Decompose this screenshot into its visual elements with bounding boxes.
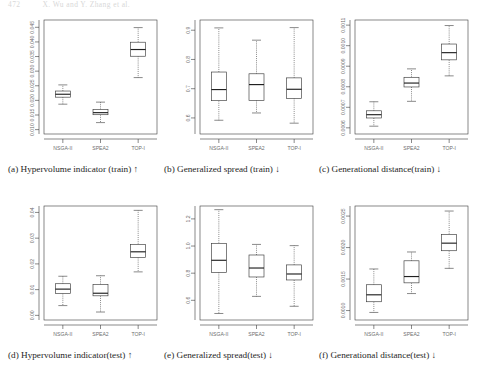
svg-text:0.025: 0.025	[29, 79, 35, 92]
caption-b: (b) Generalized spread (train) ↓	[164, 164, 316, 175]
figure-row-top: 0.0100.0150.0200.0250.0300.0350.0400.045…	[0, 14, 488, 200]
svg-text:0.6: 0.6	[185, 297, 191, 304]
svg-text:0.6: 0.6	[185, 114, 191, 121]
svg-text:1.0: 1.0	[185, 242, 191, 249]
svg-text:0.03: 0.03	[29, 233, 35, 243]
svg-text:0.0011: 0.0011	[340, 17, 346, 32]
caption-a: (a) Hypervolume indicator (train) ↑	[8, 164, 158, 175]
caption-a-arrow: ↑	[134, 164, 139, 174]
subfigure-f: 0.00100.00150.00200.0025NSGA-IISPEA2TOP-…	[311, 200, 473, 386]
caption-e-text: Generalized spread(test)	[177, 350, 267, 360]
svg-text:TOP-I: TOP-I	[442, 331, 456, 337]
subfigure-d: 0.000.010.020.030.04NSGA-IISPEA2TOP-I (d…	[0, 200, 162, 386]
svg-text:0.04: 0.04	[29, 207, 35, 217]
svg-text:SPEA2: SPEA2	[92, 331, 109, 337]
svg-text:SPEA2: SPEA2	[403, 145, 420, 151]
svg-text:0.030: 0.030	[29, 65, 35, 78]
caption-a-text: Hypervolume indicator (train)	[21, 164, 132, 174]
subfigure-a: 0.0100.0150.0200.0250.0300.0350.0400.045…	[0, 14, 162, 200]
caption-c-arrow: ↓	[437, 164, 442, 174]
svg-text:SPEA2: SPEA2	[403, 331, 420, 337]
caption-d-label: (d)	[8, 350, 19, 360]
svg-text:0.045: 0.045	[29, 21, 35, 34]
boxplot-d: 0.000.010.020.030.04NSGA-IISPEA2TOP-I	[0, 202, 162, 350]
caption-f: (f) Generational distance(test) ↓	[319, 350, 477, 361]
caption-e-label: (e)	[164, 350, 174, 360]
svg-text:0.0008: 0.0008	[340, 79, 346, 95]
svg-text:0.0009: 0.0009	[340, 58, 346, 74]
header-title: X. Wu and Y. Zhang et al.	[42, 0, 130, 9]
subfigure-c: 0.00060.00070.00080.00090.00100.0011NSGA…	[311, 14, 473, 200]
caption-b-label: (b)	[164, 164, 175, 174]
svg-text:0.0020: 0.0020	[340, 240, 346, 256]
svg-text:TOP-I: TOP-I	[287, 145, 301, 151]
svg-text:0.01: 0.01	[29, 285, 35, 295]
caption-e: (e) Generalized spread(test) ↓	[164, 350, 316, 361]
boxplot-d-canvas: 0.000.010.020.030.04NSGA-IISPEA2TOP-I	[0, 202, 162, 350]
caption-f-arrow: ↓	[432, 350, 437, 360]
subfigure-b: 0.60.70.80.9NSGA-IISPEA2TOP-I (b) Genera…	[156, 14, 318, 200]
caption-e-arrow: ↓	[268, 350, 273, 360]
boxplot-b-canvas: 0.60.70.80.9NSGA-IISPEA2TOP-I	[156, 16, 318, 164]
boxplot-a: 0.0100.0150.0200.0250.0300.0350.0400.045…	[0, 16, 162, 164]
caption-f-label: (f)	[319, 350, 328, 360]
svg-text:TOP-I: TOP-I	[131, 331, 145, 337]
svg-text:NSGA-II: NSGA-II	[209, 331, 228, 337]
svg-text:0.7: 0.7	[185, 85, 191, 92]
svg-text:0.015: 0.015	[29, 108, 35, 121]
svg-text:NSGA-II: NSGA-II	[53, 331, 72, 337]
svg-text:TOP-I: TOP-I	[131, 145, 145, 151]
svg-text:NSGA-II: NSGA-II	[209, 145, 228, 151]
caption-a-label: (a)	[8, 164, 18, 174]
boxplot-e: 0.60.81.01.2NSGA-IISPEA2TOP-I	[156, 202, 318, 350]
svg-text:SPEA2: SPEA2	[92, 145, 109, 151]
svg-text:NSGA-II: NSGA-II	[364, 331, 383, 337]
svg-text:0.0015: 0.0015	[340, 271, 346, 287]
caption-f-text: Generational distance(test)	[330, 350, 429, 360]
svg-text:0.0006: 0.0006	[340, 120, 346, 136]
caption-b-arrow: ↓	[275, 164, 280, 174]
svg-text:TOP-I: TOP-I	[287, 331, 301, 337]
svg-text:NSGA-II: NSGA-II	[53, 145, 72, 151]
svg-text:0.035: 0.035	[29, 50, 35, 63]
svg-text:0.0010: 0.0010	[340, 38, 346, 54]
boxplot-f: 0.00100.00150.00200.0025NSGA-IISPEA2TOP-…	[311, 202, 473, 350]
svg-text:0.0010: 0.0010	[340, 303, 346, 319]
caption-c-text: Generational distance(train)	[332, 164, 435, 174]
svg-text:1.2: 1.2	[185, 215, 191, 222]
svg-text:0.8: 0.8	[185, 56, 191, 63]
caption-c: (c) Generational distance(train) ↓	[319, 164, 477, 175]
svg-text:0.02: 0.02	[29, 259, 35, 269]
caption-d: (d) Hypervolume indicator(test) ↑	[8, 350, 158, 361]
svg-text:0.00: 0.00	[29, 310, 35, 320]
svg-text:NSGA-II: NSGA-II	[364, 145, 383, 151]
svg-text:0.010: 0.010	[29, 123, 35, 136]
svg-text:0.0007: 0.0007	[340, 99, 346, 115]
svg-text:SPEA2: SPEA2	[248, 145, 265, 151]
svg-text:0.8: 0.8	[185, 269, 191, 276]
figure-row-bottom: 0.000.010.020.030.04NSGA-IISPEA2TOP-I (d…	[0, 200, 488, 386]
boxplot-b: 0.60.70.80.9NSGA-IISPEA2TOP-I	[156, 16, 318, 164]
svg-text:0.040: 0.040	[29, 35, 35, 48]
svg-text:SPEA2: SPEA2	[248, 331, 265, 337]
boxplot-e-canvas: 0.60.81.01.2NSGA-IISPEA2TOP-I	[156, 202, 318, 350]
running-header: 472 X. Wu and Y. Zhang et al.	[0, 0, 488, 12]
caption-b-text: Generalized spread (train)	[177, 164, 273, 174]
caption-c-label: (c)	[319, 164, 329, 174]
caption-d-arrow: ↑	[128, 350, 133, 360]
boxplot-f-canvas: 0.00100.00150.00200.0025NSGA-IISPEA2TOP-…	[311, 202, 473, 350]
svg-text:0.020: 0.020	[29, 94, 35, 107]
svg-text:TOP-I: TOP-I	[442, 145, 456, 151]
page-number: 472	[0, 0, 42, 9]
figure-grid: 0.0100.0150.0200.0250.0300.0350.0400.045…	[0, 14, 488, 386]
svg-text:0.0025: 0.0025	[340, 208, 346, 224]
boxplot-c: 0.00060.00070.00080.00090.00100.0011NSGA…	[311, 16, 473, 164]
svg-text:0.9: 0.9	[185, 27, 191, 34]
subfigure-e: 0.60.81.01.2NSGA-IISPEA2TOP-I (e) Genera…	[156, 200, 318, 386]
caption-d-text: Hypervolume indicator(test)	[21, 350, 125, 360]
boxplot-a-canvas: 0.0100.0150.0200.0250.0300.0350.0400.045…	[0, 16, 162, 164]
boxplot-c-canvas: 0.00060.00070.00080.00090.00100.0011NSGA…	[311, 16, 473, 164]
